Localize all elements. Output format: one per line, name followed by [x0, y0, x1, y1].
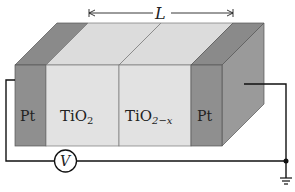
tio2x-front	[119, 65, 191, 146]
dimension-label: L	[154, 4, 166, 23]
junction-dot	[284, 159, 289, 164]
device-diagram: Pt TiO2 TiO2−x Pt L V	[0, 0, 295, 192]
pt-right-front	[191, 65, 222, 146]
ground-icon	[280, 178, 292, 184]
layer-label-pt-right: Pt	[197, 108, 212, 124]
pt-left-front	[15, 65, 46, 146]
layer-label-pt-left: Pt	[20, 108, 35, 124]
voltmeter-icon: V	[55, 150, 77, 172]
tio2-front	[46, 65, 119, 146]
